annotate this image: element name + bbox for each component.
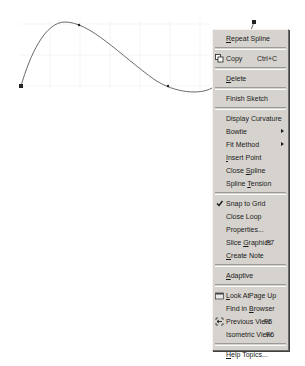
menu-separator: [215, 264, 286, 267]
menu-item-slice-graphics[interactable]: Slice GraphicsF7: [213, 236, 288, 249]
menu-item-delete[interactable]: Delete: [213, 72, 288, 85]
menu-separator: [215, 192, 286, 195]
menu-item-label: Properties...: [226, 226, 264, 233]
spline-end-point[interactable]: [252, 20, 256, 24]
menu-item-label: Look At: [226, 292, 249, 299]
submenu-arrow-icon: [281, 129, 284, 133]
menu-separator: [215, 87, 286, 90]
context-menu: Repeat SplineCopyCtrl+CDeleteFinish Sket…: [212, 29, 289, 351]
menu-item-spline-tension[interactable]: Spline Tension: [213, 177, 288, 190]
menu-item-label: Isometric View: [226, 331, 271, 338]
menu-item-label: Close Spline: [226, 167, 265, 174]
copy-icon: [215, 54, 224, 63]
menu-item-shortcut: F5: [264, 315, 272, 328]
menu-item-label: Repeat Spline: [226, 35, 270, 42]
menu-item-label: Insert Point: [226, 154, 261, 161]
menu-item-fit-method[interactable]: Fit Method: [213, 138, 288, 151]
menu-item-close-spline[interactable]: Close Spline: [213, 164, 288, 177]
menu-item-shortcut: Ctrl+C: [257, 52, 277, 65]
previous-view-icon: [215, 317, 224, 326]
spline-start-point[interactable]: [19, 84, 23, 88]
menu-item-shortcut: F6: [266, 328, 274, 341]
menu-item-insert-point[interactable]: Insert Point: [213, 151, 288, 164]
menu-item-display-curvature[interactable]: Display Curvature: [213, 112, 288, 125]
menu-item-previous-view[interactable]: Previous ViewF5: [213, 315, 288, 328]
menu-item-adaptive[interactable]: Adaptive: [213, 269, 288, 282]
spline-fit-point[interactable]: [78, 24, 80, 26]
menu-separator: [215, 47, 286, 50]
menu-item-look-at[interactable]: Look AtPage Up: [213, 289, 288, 302]
spline-fit-point[interactable]: [167, 85, 169, 87]
checkmark-icon: [215, 199, 224, 208]
menu-item-label: Fit Method: [226, 141, 259, 148]
menu-item-label: Copy: [226, 55, 242, 62]
menu-separator: [215, 67, 286, 70]
menu-item-help-topics[interactable]: Help Topics...: [213, 348, 288, 361]
menu-item-label: Create Note: [226, 252, 264, 259]
menu-item-snap-to-grid[interactable]: Snap to Grid: [213, 197, 288, 210]
menu-item-label: Find in Browser: [226, 305, 275, 312]
spline-curve[interactable]: [21, 22, 212, 92]
menu-item-isometric-view[interactable]: Isometric ViewF6: [213, 328, 288, 341]
menu-item-label: Slice Graphics: [226, 239, 271, 246]
menu-item-find-in-browser[interactable]: Find in Browser: [213, 302, 288, 315]
menu-item-label: Bowtie: [226, 128, 247, 135]
look-at-icon: [215, 291, 224, 300]
menu-item-bowtie[interactable]: Bowtie: [213, 125, 288, 138]
submenu-arrow-icon: [281, 142, 284, 146]
menu-item-label: Snap to Grid: [226, 200, 265, 207]
menu-item-label: Close Loop: [226, 213, 261, 220]
menu-item-copy[interactable]: CopyCtrl+C: [213, 52, 288, 65]
menu-item-shortcut: F7: [266, 236, 274, 249]
menu-separator: [215, 343, 286, 346]
menu-item-finish-sketch[interactable]: Finish Sketch: [213, 92, 288, 105]
menu-item-label: Finish Sketch: [226, 95, 268, 102]
menu-separator: [215, 284, 286, 287]
menu-item-label: Display Curvature: [226, 115, 282, 122]
menu-item-label: Delete: [226, 75, 246, 82]
menu-separator: [215, 107, 286, 110]
menu-item-repeat-spline[interactable]: Repeat Spline: [213, 32, 288, 45]
menu-item-shortcut: Page Up: [249, 289, 276, 302]
menu-item-close-loop[interactable]: Close Loop: [213, 210, 288, 223]
menu-item-properties[interactable]: Properties...: [213, 223, 288, 236]
menu-item-label: Spline Tension: [226, 180, 271, 187]
menu-item-create-note[interactable]: Create Note: [213, 249, 288, 262]
menu-item-label: Adaptive: [226, 272, 253, 279]
menu-item-label: Help Topics...: [226, 351, 268, 358]
